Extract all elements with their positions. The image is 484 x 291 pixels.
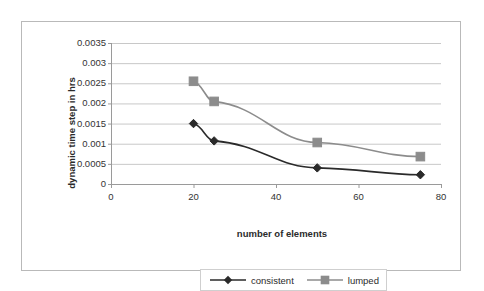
chart-plot-frame: dynamic time step in hrs number of eleme… (21, 21, 461, 271)
square-marker-icon (305, 273, 345, 287)
data-point-marker (189, 119, 197, 127)
legend-entry-consistent[interactable]: consistent (208, 273, 294, 287)
y-axis-tick-label: 0 (50, 178, 106, 189)
x-axis-title: number of elements (202, 228, 362, 239)
y-axis-tick-label: 0.002 (50, 97, 106, 108)
legend-label: lumped (346, 275, 379, 286)
chart-figure: dynamic time step in hrs number of eleme… (0, 0, 484, 291)
data-point-marker (416, 152, 425, 161)
data-point-marker (416, 171, 424, 179)
series-line (194, 124, 421, 175)
y-axis-tick-label: 0.0015 (50, 118, 106, 129)
chart-legend: consistentlumped (200, 269, 387, 291)
series-line (194, 81, 421, 156)
y-axis-tick-label: 0.003 (50, 57, 106, 68)
data-point-marker (313, 164, 321, 172)
series-consistent (189, 119, 424, 179)
x-axis-tick-label: 40 (261, 191, 291, 202)
gridlines (111, 44, 441, 185)
y-axis-tick-label: 0.0005 (50, 158, 106, 169)
x-axis-tick-label: 80 (426, 191, 456, 202)
data-point-marker (189, 77, 198, 86)
diamond-marker-icon (208, 273, 248, 287)
data-point-marker (210, 97, 219, 106)
x-axis-tick-label: 20 (179, 191, 209, 202)
legend-entry-lumped[interactable]: lumped (305, 273, 379, 287)
y-axis-tick-label: 0.0035 (50, 37, 106, 48)
legend-label: consistent (249, 275, 294, 286)
x-axis-tick-label: 60 (344, 191, 374, 202)
y-axis-tick-label: 0.0025 (50, 77, 106, 88)
data-point-marker (313, 138, 322, 147)
y-axis-tick-label: 0.001 (50, 138, 106, 149)
series-lumped (189, 77, 424, 161)
x-axis-tick-label: 0 (96, 191, 126, 202)
